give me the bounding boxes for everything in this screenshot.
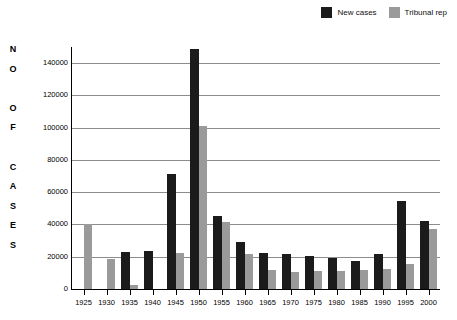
x-tick-mark — [176, 290, 177, 295]
x-tick-label: 1960 — [233, 298, 256, 310]
bar-group — [118, 47, 141, 289]
x-tick-mark — [291, 290, 292, 295]
y-tick-label: 40000 — [22, 220, 68, 228]
x-axis-labels: 1925193019351940194519501955196019651970… — [72, 298, 440, 310]
bar-group — [302, 47, 325, 289]
bar-group — [417, 47, 440, 289]
x-axis-ticks — [72, 290, 440, 295]
bar-group — [164, 47, 187, 289]
y-axis-title-letter: A — [10, 177, 17, 197]
bar — [374, 254, 383, 289]
x-tick-label: 1935 — [118, 298, 141, 310]
x-tick-label: 1945 — [164, 298, 187, 310]
bar-chart: New cases Tribunal rep NOOFCASES 0200004… — [0, 0, 457, 320]
bar — [259, 253, 268, 289]
bar-group — [348, 47, 371, 289]
y-axis-title-letter: C — [10, 158, 17, 178]
bar-group — [233, 47, 256, 289]
bar-group — [187, 47, 210, 289]
x-tick-mark — [406, 290, 407, 295]
bar — [360, 270, 369, 289]
x-tick-label: 1930 — [95, 298, 118, 310]
bar — [144, 251, 153, 289]
plot-area — [72, 47, 440, 289]
bar-group — [371, 47, 394, 289]
x-tick-label: 1990 — [371, 298, 394, 310]
x-tick-label: 1940 — [141, 298, 164, 310]
chart-legend: New cases Tribunal rep — [0, 7, 447, 18]
y-tick-label: 20000 — [22, 253, 68, 261]
x-tick-mark — [107, 290, 108, 295]
y-tick-label: 60000 — [22, 188, 68, 196]
bar — [268, 270, 277, 289]
y-axis-title-letter: S — [10, 236, 16, 256]
bar — [305, 256, 314, 289]
bar — [291, 272, 300, 289]
legend-entry-tribunal-rep: Tribunal rep — [389, 7, 447, 18]
bar-group — [279, 47, 302, 289]
y-tick-label: 120000 — [22, 91, 68, 99]
y-axis-title-letter: E — [10, 216, 16, 236]
bar — [213, 216, 222, 289]
x-tick-label: 1980 — [325, 298, 348, 310]
y-tick-label: 0 — [22, 285, 68, 293]
x-tick-mark — [383, 290, 384, 295]
x-tick-mark — [84, 290, 85, 295]
y-axis-title: NOOFCASES — [6, 40, 20, 256]
bar — [351, 261, 360, 289]
bar-group — [394, 47, 417, 289]
bar — [282, 254, 291, 289]
legend-swatch-new-cases — [321, 7, 332, 18]
bar — [167, 174, 176, 289]
legend-label-new-cases: New cases — [337, 8, 376, 17]
legend-swatch-tribunal-rep — [389, 7, 400, 18]
bar — [190, 49, 199, 289]
x-tick-label: 1975 — [302, 298, 325, 310]
x-tick-label: 1995 — [394, 298, 417, 310]
bar — [314, 271, 323, 289]
bar-group — [141, 47, 164, 289]
y-axis-title-letter: S — [10, 197, 16, 217]
bar — [420, 221, 429, 289]
x-tick-mark — [130, 290, 131, 295]
bar — [328, 258, 337, 289]
y-tick-label: 100000 — [22, 124, 68, 132]
bar — [397, 201, 406, 289]
x-tick-mark — [337, 290, 338, 295]
y-tick-label: 140000 — [22, 59, 68, 67]
bar — [383, 269, 392, 289]
y-axis-title-letter: F — [10, 118, 16, 138]
x-tick-mark — [222, 290, 223, 295]
bar-group — [72, 47, 95, 289]
bar — [406, 264, 415, 289]
bar — [84, 224, 93, 289]
x-tick-mark — [314, 290, 315, 295]
x-tick-mark — [245, 290, 246, 295]
bar — [176, 253, 185, 289]
bar-group — [325, 47, 348, 289]
bar-group — [210, 47, 233, 289]
bar — [429, 229, 438, 290]
bar — [130, 285, 139, 289]
y-axis-title-letter: N — [10, 40, 17, 60]
x-tick-label: 1955 — [210, 298, 233, 310]
bar-group — [256, 47, 279, 289]
x-tick-label: 1985 — [348, 298, 371, 310]
x-tick-mark — [429, 290, 430, 295]
x-tick-label: 2000 — [417, 298, 440, 310]
x-tick-label: 1970 — [279, 298, 302, 310]
x-tick-mark — [268, 290, 269, 295]
bar-groups — [72, 47, 440, 289]
bar — [337, 271, 346, 289]
x-tick-mark — [360, 290, 361, 295]
x-tick-label: 1925 — [72, 298, 95, 310]
legend-label-tribunal-rep: Tribunal rep — [405, 8, 447, 17]
y-tick-label: 80000 — [22, 156, 68, 164]
bar — [236, 242, 245, 289]
bar — [222, 222, 231, 289]
y-axis-title-letter: O — [9, 60, 16, 80]
x-tick-label: 1965 — [256, 298, 279, 310]
x-tick-label: 1950 — [187, 298, 210, 310]
legend-entry-new-cases: New cases — [321, 7, 376, 18]
x-tick-mark — [199, 290, 200, 295]
